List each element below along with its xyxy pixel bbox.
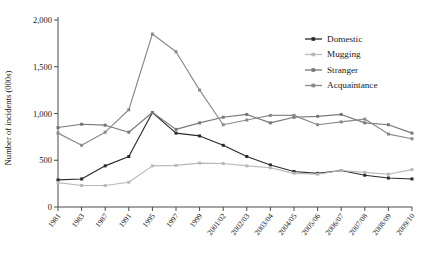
data-point: [245, 164, 248, 167]
x-axis-tick-label: 1981: [46, 212, 63, 230]
data-point: [316, 123, 319, 126]
data-point: [245, 119, 248, 122]
x-axis-tick-label: 1999: [188, 212, 205, 230]
data-point: [198, 134, 201, 137]
x-axis-tick-label: 2002/03: [229, 212, 252, 237]
data-point: [387, 173, 390, 176]
data-point: [363, 171, 366, 174]
data-point: [80, 177, 83, 180]
data-point: [340, 113, 343, 116]
data-point: [387, 177, 390, 180]
data-point: [151, 33, 154, 36]
legend-item-stranger[interactable]: Stranger: [305, 65, 358, 75]
legend-marker: [312, 53, 316, 57]
data-point: [57, 178, 60, 181]
data-point: [293, 172, 296, 175]
data-point: [175, 128, 178, 131]
y-axis-tick-label: 0: [48, 202, 52, 212]
y-axis-tick-label: 1,500: [33, 62, 52, 72]
data-point: [363, 118, 366, 121]
y-axis-tick-label: 500: [39, 155, 52, 165]
x-axis-tick-label: 2006/07: [323, 212, 346, 237]
legend-marker: [312, 37, 316, 41]
data-point: [127, 155, 130, 158]
data-point: [151, 111, 154, 114]
chart-legend: DomesticMuggingStrangerAcquaintance: [305, 34, 378, 91]
legend-marker: [312, 68, 316, 72]
data-point: [80, 144, 83, 147]
data-point: [222, 116, 225, 119]
data-point: [269, 163, 272, 166]
data-point: [198, 89, 201, 92]
data-point: [363, 121, 366, 124]
line-chart: 05001,0001,5002,000 19811983198719911995…: [0, 0, 424, 269]
data-point: [387, 133, 390, 136]
x-axis: 19811983198719911995199719992001/022002/…: [46, 207, 417, 237]
data-point: [411, 177, 414, 180]
data-point: [104, 184, 107, 187]
data-point: [269, 121, 272, 124]
data-point: [340, 169, 343, 172]
legend-item-mugging[interactable]: Mugging: [305, 49, 361, 59]
data-point: [80, 184, 83, 187]
legend-label: Acquaintance: [327, 80, 378, 90]
data-point: [175, 50, 178, 53]
data-point: [57, 181, 60, 184]
legend-label: Domestic: [327, 34, 362, 44]
y-axis-tick-label: 1,000: [33, 109, 52, 119]
legend-marker: [312, 84, 316, 88]
data-point: [245, 113, 248, 116]
x-axis-tick-label: 1983: [70, 212, 87, 230]
legend-label: Stranger: [327, 65, 358, 75]
legend-label: Mugging: [327, 49, 361, 59]
x-axis-tick-label: 2001/02: [205, 212, 228, 237]
data-point: [411, 137, 414, 140]
legend-item-domestic[interactable]: Domestic: [305, 34, 362, 44]
data-point: [363, 174, 366, 177]
chart-canvas: 05001,0001,5002,000 19811983198719911995…: [0, 0, 424, 269]
data-point: [293, 114, 296, 117]
data-point: [104, 131, 107, 134]
y-axis-title: Number of incidents (000s): [3, 70, 13, 165]
data-point: [198, 121, 201, 124]
data-point: [340, 120, 343, 123]
data-point: [411, 132, 414, 135]
x-axis-tick-label: 1987: [93, 212, 110, 230]
data-point: [222, 123, 225, 126]
x-axis-tick-label: 1997: [164, 212, 181, 230]
data-point: [316, 173, 319, 176]
y-axis: 05001,0001,5002,000: [33, 15, 58, 212]
data-point: [127, 108, 130, 111]
x-axis-tick-label: 1991: [117, 212, 134, 230]
legend-item-acquaintance[interactable]: Acquaintance: [305, 80, 378, 90]
data-point: [269, 166, 272, 169]
data-point: [80, 123, 83, 126]
data-point: [57, 132, 60, 135]
x-axis-tick-label: 2005/06: [300, 212, 323, 237]
data-point: [198, 162, 201, 165]
data-point: [269, 114, 272, 117]
x-axis-tick-label: 2003/04: [253, 212, 276, 237]
data-point: [387, 123, 390, 126]
data-point: [57, 126, 60, 129]
data-point: [127, 131, 130, 134]
x-axis-tick-label: 2007/08: [347, 212, 370, 237]
data-point: [151, 164, 154, 167]
data-point: [222, 162, 225, 165]
data-point: [411, 168, 414, 171]
data-point: [245, 155, 248, 158]
data-point: [104, 124, 107, 127]
data-point: [316, 115, 319, 118]
data-point: [104, 164, 107, 167]
x-axis-tick-label: 1995: [141, 212, 158, 230]
x-axis-tick-label: 2009/10: [394, 212, 417, 237]
data-point: [222, 144, 225, 147]
data-point: [127, 181, 130, 184]
x-axis-tick-label: 2004/05: [276, 212, 299, 237]
data-point: [175, 164, 178, 167]
data-point: [175, 132, 178, 135]
x-axis-tick-label: 2008/09: [371, 212, 394, 237]
y-axis-tick-label: 2,000: [33, 15, 52, 25]
